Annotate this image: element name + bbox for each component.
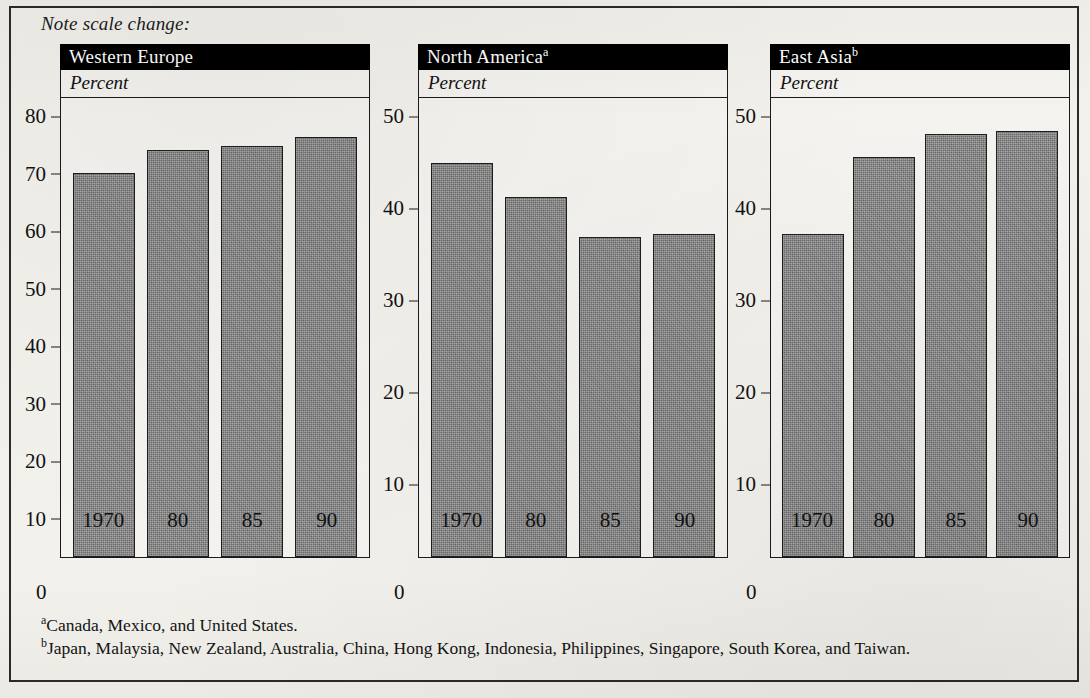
panel-subtitle-western-europe: Percent <box>60 70 370 98</box>
bar <box>505 197 567 557</box>
y-tick-value: 50 <box>383 104 404 128</box>
y-tick-mark <box>51 231 60 232</box>
y-tick-label: 30 <box>25 391 60 416</box>
panel-western-europe: Western Europe Percent 1970808590 <box>60 44 370 558</box>
x-tick-label: 1970 <box>72 508 134 533</box>
panel-north-america: North Americaa Percent 1970808590 <box>418 44 728 558</box>
y-tick-value: 50 <box>735 104 756 128</box>
y-tick-label: 40 <box>383 196 418 221</box>
bar <box>853 157 915 557</box>
plot-area-western-europe <box>60 98 370 558</box>
y-tick-value: 40 <box>735 196 756 220</box>
y-tick-mark <box>51 289 60 290</box>
y-tick-value: 30 <box>25 391 46 415</box>
bar <box>996 131 1058 557</box>
zero-label-western-europe: 0 <box>36 580 47 605</box>
y-tick-label: 70 <box>25 161 60 186</box>
y-tick-value: 10 <box>383 472 404 496</box>
footnote-b-text: Japan, Malaysia, New Zealand, Australia,… <box>47 638 910 658</box>
footnote-a-text: Canada, Mexico, and United States. <box>46 615 297 635</box>
panel-title: East Asia <box>779 46 852 67</box>
plot-area-east-asia <box>770 98 1070 558</box>
y-tick-label: 20 <box>383 380 418 405</box>
y-tick-label: 50 <box>735 104 770 129</box>
y-axis-western-europe: 1020304050607080 <box>4 116 60 576</box>
y-tick-value: 50 <box>25 276 46 300</box>
y-axis-north-america: 1020304050 <box>362 116 418 576</box>
y-tick-mark <box>51 404 60 405</box>
y-tick-value: 20 <box>25 449 46 473</box>
panel-subtitle-east-asia: Percent <box>770 70 1070 98</box>
y-tick-mark <box>761 392 770 393</box>
bar <box>431 163 493 557</box>
y-tick-label: 80 <box>25 104 60 129</box>
y-tick-label: 10 <box>735 472 770 497</box>
y-tick-label: 30 <box>383 288 418 313</box>
panel-east-asia: East Asiab Percent 1970808590 <box>770 44 1070 558</box>
panel-header-east-asia: East Asiab <box>770 44 1070 70</box>
y-tick-value: 60 <box>25 219 46 243</box>
y-tick-mark <box>409 392 418 393</box>
y-axis-east-asia: 1020304050 <box>714 116 770 576</box>
zero-label-north-america: 0 <box>394 580 405 605</box>
x-tick-label: 90 <box>296 508 358 533</box>
y-tick-label: 10 <box>25 506 60 531</box>
y-tick-mark <box>51 519 60 520</box>
y-tick-mark <box>51 116 60 117</box>
footnote-a: aCanada, Mexico, and United States. <box>41 614 910 637</box>
footnotes: aCanada, Mexico, and United States. bJap… <box>41 614 910 660</box>
panel-title-superscript: b <box>852 45 858 59</box>
panel-header-western-europe: Western Europe <box>60 44 370 70</box>
y-tick-label: 10 <box>383 472 418 497</box>
bar <box>147 150 209 557</box>
bar-group-western-europe <box>61 98 369 557</box>
x-axis-labels-north-america: 1970808590 <box>418 508 728 533</box>
chart-page: Note scale change: Western Europe Percen… <box>0 0 1090 698</box>
plot-area-north-america <box>418 98 728 558</box>
bar-group-east-asia <box>771 98 1069 557</box>
y-tick-label: 60 <box>25 219 60 244</box>
y-tick-mark <box>761 300 770 301</box>
panel-title: North America <box>427 46 543 67</box>
y-tick-mark <box>409 484 418 485</box>
y-tick-value: 80 <box>25 104 46 128</box>
y-tick-mark <box>51 346 60 347</box>
y-tick-mark <box>409 300 418 301</box>
footnote-b: bJapan, Malaysia, New Zealand, Australia… <box>41 637 910 660</box>
x-tick-label: 1970 <box>781 508 843 533</box>
bar <box>295 137 357 557</box>
y-tick-label: 50 <box>383 104 418 129</box>
y-tick-mark <box>761 116 770 117</box>
x-tick-label: 90 <box>654 508 716 533</box>
bar-group-north-america <box>419 98 727 557</box>
bar <box>73 173 135 557</box>
y-tick-value: 30 <box>383 288 404 312</box>
x-tick-label: 90 <box>997 508 1059 533</box>
y-tick-label: 40 <box>735 196 770 221</box>
y-tick-label: 20 <box>25 449 60 474</box>
y-tick-label: 50 <box>25 276 60 301</box>
panel-title-superscript: a <box>543 45 549 59</box>
panel-subtitle-north-america: Percent <box>418 70 728 98</box>
panel-title: Western Europe <box>69 46 193 67</box>
y-tick-label: 30 <box>735 288 770 313</box>
y-tick-value: 20 <box>735 380 756 404</box>
y-tick-mark <box>761 484 770 485</box>
y-tick-mark <box>409 116 418 117</box>
y-tick-mark <box>761 208 770 209</box>
x-tick-label: 85 <box>221 508 283 533</box>
x-axis-labels-western-europe: 1970808590 <box>60 508 370 533</box>
y-tick-value: 20 <box>383 380 404 404</box>
y-tick-value: 10 <box>25 506 46 530</box>
zero-label-east-asia: 0 <box>746 580 757 605</box>
panel-header-north-america: North Americaa <box>418 44 728 70</box>
x-tick-label: 1970 <box>430 508 492 533</box>
y-tick-value: 40 <box>383 196 404 220</box>
y-tick-value: 40 <box>25 334 46 358</box>
x-tick-label: 80 <box>147 508 209 533</box>
y-tick-mark <box>51 174 60 175</box>
x-tick-label: 85 <box>579 508 641 533</box>
y-tick-label: 40 <box>25 334 60 359</box>
scale-change-note: Note scale change: <box>41 13 190 35</box>
x-axis-labels-east-asia: 1970808590 <box>770 508 1070 533</box>
